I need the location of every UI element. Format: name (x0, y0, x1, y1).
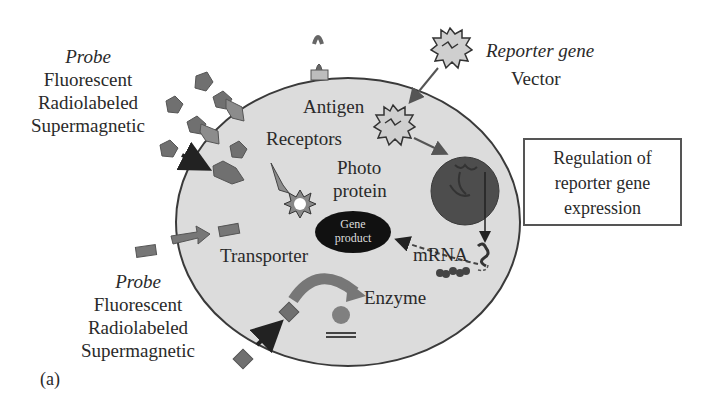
probe-title: Probe (8, 45, 168, 68)
enzyme-label: Enzyme (364, 287, 426, 309)
photoprotein-label-line1: Photo (337, 157, 381, 179)
probe-type: Supermagnetic (58, 339, 218, 362)
transporter-label: Transporter (220, 245, 308, 267)
probe-title: Probe (58, 270, 218, 293)
antigen-receptor-icon (311, 37, 328, 80)
regulation-line: expression (525, 196, 680, 221)
probe-type: Fluorescent (58, 293, 218, 316)
reporter-gene-diagram: Probe Fluorescent Radiolabeled Supermagn… (0, 0, 711, 412)
gene-product-label: Gene product (318, 217, 388, 245)
photoprotein-label-line2: protein (333, 180, 387, 202)
probe-type: Supermagnetic (8, 114, 168, 137)
regulation-line: Regulation of (525, 146, 680, 171)
antigen-label: Antigen (303, 96, 364, 118)
probe-type: Fluorescent (8, 68, 168, 91)
enzyme-product-dot (332, 306, 350, 324)
nucleus (431, 157, 499, 225)
mrna-label: mRNA (413, 244, 468, 266)
probe-type: Radiolabeled (8, 91, 168, 114)
receptors-label: Receptors (266, 128, 342, 150)
reporter-vector-icon (431, 28, 472, 68)
regulation-box: Regulation of reporter gene expression (523, 138, 682, 226)
vector-label: Vector (511, 68, 561, 90)
probe-label-top: Probe Fluorescent Radiolabeled Supermagn… (8, 45, 168, 137)
reporter-gene-label: Reporter gene (486, 40, 594, 62)
regulation-line: reporter gene (525, 171, 680, 196)
panel-label: (a) (40, 368, 60, 390)
probe-type: Radiolabeled (58, 316, 218, 339)
probe-label-bottom: Probe Fluorescent Radiolabeled Supermagn… (58, 270, 218, 362)
